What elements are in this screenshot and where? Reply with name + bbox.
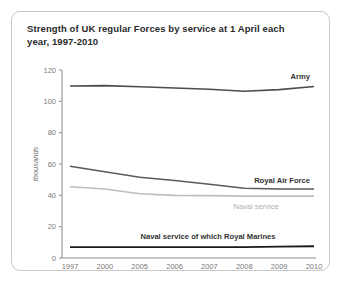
series-label-royal-air-force: Royal Air Force (254, 176, 310, 185)
x-tick-label: 2005 (131, 262, 148, 271)
y-tick-label: 60 (48, 160, 56, 169)
series-line-naval-service-of-which-royal-marines (70, 246, 314, 247)
x-tick-label: 2006 (166, 262, 183, 271)
x-tick-label: 2010 (306, 262, 323, 271)
y-tick-label: 120 (43, 66, 56, 75)
series-line-army (70, 86, 314, 92)
series-label-royal-marines: Naval service of which Royal Marines (140, 232, 275, 241)
series-line-naval-service (70, 187, 314, 196)
line-chart: 020406080100120thousands1997200020052006… (0, 0, 342, 284)
x-tick-label: 2000 (97, 262, 114, 271)
series-label-army: Army (291, 72, 311, 81)
y-tick-label: 20 (48, 222, 56, 231)
y-axis-title: thousands (31, 146, 40, 181)
y-tick-label: 40 (48, 191, 56, 200)
series-label-naval-service: Naval service (233, 202, 279, 211)
x-tick-label: 2009 (271, 262, 288, 271)
y-tick-label: 0 (52, 254, 56, 263)
x-tick-label: 1997 (62, 262, 79, 271)
y-tick-label: 100 (43, 97, 56, 106)
x-tick-label: 2007 (201, 262, 218, 271)
y-tick-label: 80 (48, 128, 56, 137)
x-tick-label: 2008 (236, 262, 253, 271)
